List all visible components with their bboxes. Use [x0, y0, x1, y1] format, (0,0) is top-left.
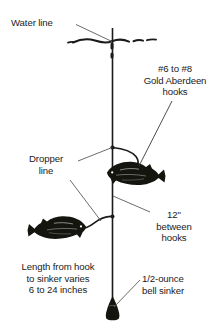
- label-hook-spacing: 12" between hooks: [143, 209, 205, 244]
- label-bell-sinker: 1/2-ounce bell sinker: [142, 273, 212, 296]
- diagram-canvas: Water line #6 to #8 Gold Aberdeen hooks …: [0, 0, 214, 331]
- label-length-to-sinker: Length from hook to sinker varies 6 to 2…: [8, 261, 108, 296]
- lower-fish: [28, 216, 87, 239]
- label-water-line: Water line: [11, 17, 75, 29]
- main-line: [112, 28, 113, 303]
- label-hooks: #6 to #8 Gold Aberdeen hooks: [138, 63, 212, 98]
- leader-dropper-upper: [78, 148, 112, 162]
- leader-hooks: [139, 101, 172, 166]
- bell-sinker: [106, 296, 120, 320]
- leader-sinker: [114, 280, 140, 307]
- upper-fish: [107, 162, 166, 185]
- leader-dropper-lower: [70, 180, 101, 221]
- label-dropper-line: Dropper line: [14, 153, 78, 176]
